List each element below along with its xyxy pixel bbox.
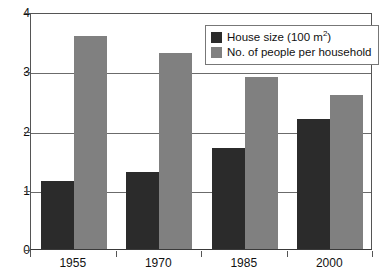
- legend-swatch-people-per-household: [211, 47, 222, 58]
- bar-1970-series0: [126, 172, 159, 249]
- bar-2000-series0: [297, 119, 330, 249]
- x-tick-label-1955: 1955: [30, 256, 116, 270]
- x-axis: 1955197019852000: [30, 256, 372, 276]
- x-tick-mark-2: [201, 251, 202, 257]
- legend-swatch-house-size: [211, 32, 222, 43]
- bar-1985-series0: [212, 148, 245, 249]
- legend-label-house-size: House size (100 m2): [227, 31, 331, 44]
- x-tick-label-2000: 2000: [287, 256, 373, 270]
- bar-chart: 01234 1955197019852000 House size (100 m…: [0, 0, 385, 279]
- bar-1970-series1: [159, 53, 192, 249]
- x-tick-mark-0: [30, 251, 31, 257]
- x-tick-label-1970: 1970: [116, 256, 202, 270]
- bar-1985-series1: [245, 77, 278, 249]
- legend-label-people-per-household: No. of people per household: [227, 46, 372, 59]
- y-axis: 01234: [0, 0, 30, 279]
- bar-1955-series1: [74, 36, 107, 249]
- bar-1955-series0: [41, 181, 74, 249]
- legend-item: No. of people per household: [211, 45, 372, 60]
- x-tick-mark-1: [116, 251, 117, 257]
- bar-2000-series1: [330, 95, 363, 249]
- x-tick-mark-3: [287, 251, 288, 257]
- x-tick-label-1985: 1985: [201, 256, 287, 270]
- legend-item: House size (100 m2): [211, 30, 372, 45]
- x-tick-mark-4: [372, 251, 373, 257]
- legend: House size (100 m2) No. of people per ho…: [205, 25, 379, 65]
